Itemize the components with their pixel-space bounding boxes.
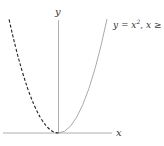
function-graph: y x y = x2, x ≥ (0, 0, 164, 146)
parabola-right-branch (59, 19, 108, 133)
x-axis-label: x (116, 127, 122, 138)
equation-base: y = x (112, 20, 136, 30)
equation-condition: , x ≥ (140, 20, 161, 30)
reflected-branch-dashed (9, 19, 59, 133)
curve-equation-label: y = x2, x ≥ (112, 18, 161, 30)
y-axis-label: y (54, 6, 61, 17)
